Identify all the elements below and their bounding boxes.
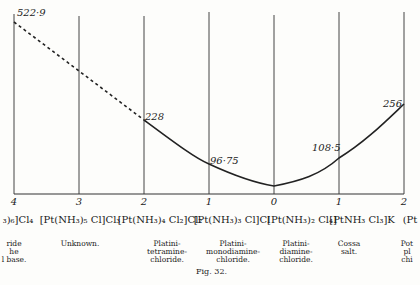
label-108-5: 108·5 [312,142,341,153]
tick-1-right: 1 [336,196,342,207]
grid-lines [14,12,404,194]
name-4: Platini- diamine- chloride. [279,240,313,264]
figure-caption: Fig. 32. [196,267,227,276]
label-228: 228 [144,111,164,122]
name-0: ride he l base. [2,240,27,264]
name-1: Unknown. [61,240,100,248]
name-6: Pot pl chi [401,240,413,264]
formula-3: [Pt(NH₃)₃ Cl]Cl [194,214,271,225]
label-256: 256 [382,98,403,109]
tick-0: 0 [271,196,277,207]
label-522-9: 522·9 [17,7,46,18]
name-2: Platini- tetramine- chloride. [147,240,187,264]
formula-1: [Pt(NH₃)₅ Cl]Cl₃ [40,214,121,225]
tick-2-right: 2 [401,196,407,207]
label-96-75: 96·75 [210,155,239,166]
name-5: Cossa salt. [338,240,360,256]
conductivity-chart: 522·9 228 96·75 108·5 256 [0,0,420,210]
tick-4: 4 [11,196,17,207]
tick-3: 3 [76,196,82,207]
formula-2: [Pt(NH₃)₄ Cl₂]Cl₂ [118,214,203,225]
name-3: Platini- monodiamine- chloride. [206,240,260,264]
formula-5: [PtNH₃ Cl₃]K [329,214,395,225]
tick-1: 1 [206,196,212,207]
formula-4: [Pt(NH₃)₂ Cl₄] [267,214,337,225]
formula-0: ₃)₆]Cl₄ [3,214,34,225]
formula-6: (Pt [403,214,418,225]
tick-2: 2 [141,196,147,207]
